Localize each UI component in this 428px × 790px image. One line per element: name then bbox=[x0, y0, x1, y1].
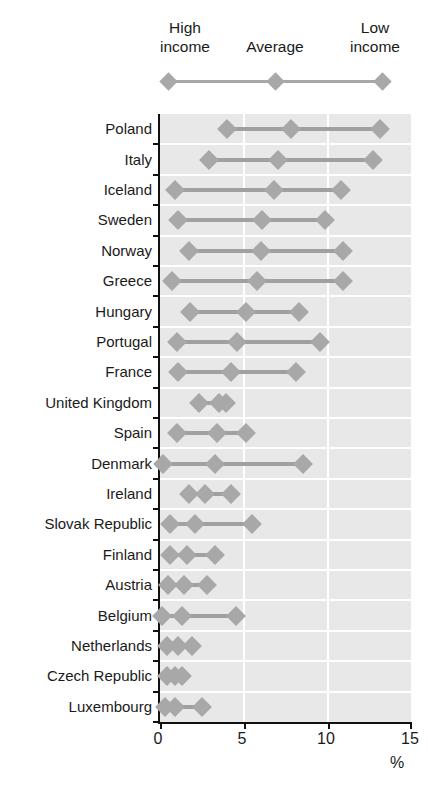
marker-high-income bbox=[160, 514, 180, 534]
marker-low-income bbox=[363, 150, 383, 170]
marker-average bbox=[206, 454, 226, 474]
legend-marker-high-income bbox=[159, 72, 177, 90]
marker-high-income bbox=[152, 606, 172, 626]
range-line bbox=[177, 340, 320, 344]
y-axis-tick bbox=[153, 447, 160, 449]
y-axis-label: Spain bbox=[2, 424, 152, 441]
y-axis-label: Denmark bbox=[2, 455, 152, 472]
row-separator bbox=[160, 508, 412, 510]
row-separator bbox=[160, 174, 412, 176]
chart-legend: High income Average Low income bbox=[0, 12, 428, 104]
y-axis-tick bbox=[153, 356, 160, 358]
marker-low-income bbox=[242, 514, 262, 534]
marker-low-income bbox=[221, 484, 241, 504]
x-axis-tick-label: 10 bbox=[306, 730, 346, 748]
range-line bbox=[170, 522, 252, 526]
row-separator bbox=[160, 599, 412, 601]
marker-average bbox=[251, 241, 271, 261]
marker-low-income bbox=[315, 210, 335, 230]
x-axis-tick-label: 15 bbox=[390, 730, 428, 748]
cut-off-title bbox=[0, 0, 428, 12]
y-axis-tick bbox=[153, 174, 160, 176]
x-axis-labels: % 051015 bbox=[0, 724, 428, 784]
marker-high-income bbox=[189, 393, 209, 413]
y-axis-tick bbox=[153, 660, 160, 662]
y-axis-label: United Kingdom bbox=[2, 394, 152, 411]
marker-average bbox=[174, 575, 194, 595]
marker-high-income bbox=[169, 362, 189, 382]
row-separator bbox=[160, 235, 412, 237]
marker-low-income bbox=[333, 241, 353, 261]
row-separator bbox=[160, 630, 412, 632]
marker-high-income bbox=[165, 180, 185, 200]
y-axis-label: Poland bbox=[2, 120, 152, 137]
y-axis-label: Portugal bbox=[2, 333, 152, 350]
row-separator bbox=[160, 539, 412, 541]
marker-average bbox=[185, 514, 205, 534]
x-axis-unit: % bbox=[390, 754, 404, 772]
y-axis-label: Slovak Republic bbox=[2, 515, 152, 532]
y-axis-tick bbox=[153, 387, 160, 389]
row-separator bbox=[160, 660, 412, 662]
y-axis-label: Iceland bbox=[2, 181, 152, 198]
y-axis-tick bbox=[153, 691, 160, 693]
y-axis-label: Luxembourg bbox=[2, 698, 152, 715]
legend-marker-average bbox=[266, 72, 284, 90]
y-axis-label: France bbox=[2, 363, 152, 380]
marker-average bbox=[268, 150, 288, 170]
row-separator bbox=[160, 478, 412, 480]
y-axis-tick bbox=[153, 599, 160, 601]
marker-low-income bbox=[286, 362, 306, 382]
marker-average bbox=[281, 119, 301, 139]
y-axis-tick bbox=[153, 508, 160, 510]
y-axis-labels: PolandItalyIcelandSwedenNorwayGreeceHung… bbox=[0, 114, 152, 722]
marker-low-income bbox=[332, 180, 352, 200]
marker-low-income bbox=[182, 636, 202, 656]
row-separator bbox=[160, 387, 412, 389]
marker-high-income bbox=[217, 119, 237, 139]
y-axis-tick bbox=[153, 204, 160, 206]
row-separator bbox=[160, 356, 412, 358]
legend-label-low-income: Low income bbox=[330, 18, 420, 56]
marker-average bbox=[177, 545, 197, 565]
legend-label-high-income: High income bbox=[140, 18, 230, 56]
marker-high-income bbox=[162, 271, 182, 291]
y-axis-tick bbox=[153, 630, 160, 632]
marker-high-income bbox=[199, 150, 219, 170]
row-separator bbox=[160, 204, 412, 206]
y-axis-label: Czech Republic bbox=[2, 667, 152, 684]
y-axis-tick bbox=[153, 417, 160, 419]
marker-high-income bbox=[167, 423, 187, 443]
x-axis-tick-label: 0 bbox=[138, 730, 178, 748]
legend-marker-low-income bbox=[373, 72, 391, 90]
y-axis-label: Norway bbox=[2, 242, 152, 259]
y-axis-label: Greece bbox=[2, 272, 152, 289]
y-axis-tick bbox=[153, 295, 160, 297]
marker-average bbox=[221, 362, 241, 382]
marker-average bbox=[172, 606, 192, 626]
y-axis-label: Finland bbox=[2, 546, 152, 563]
row-separator bbox=[160, 143, 412, 145]
row-separator bbox=[160, 447, 412, 449]
marker-high-income bbox=[169, 210, 189, 230]
marker-average bbox=[195, 484, 215, 504]
marker-average bbox=[264, 180, 284, 200]
marker-high-income bbox=[180, 302, 200, 322]
marker-low-income bbox=[293, 454, 313, 474]
plot-area bbox=[158, 114, 412, 724]
marker-average bbox=[207, 423, 227, 443]
y-axis-label: Netherlands bbox=[2, 637, 152, 654]
marker-high-income bbox=[167, 332, 187, 352]
row-separator bbox=[160, 295, 412, 297]
y-axis-tick bbox=[153, 235, 160, 237]
row-separator bbox=[160, 417, 412, 419]
marker-low-income bbox=[206, 545, 226, 565]
y-axis-tick bbox=[153, 539, 160, 541]
y-axis-tick bbox=[153, 478, 160, 480]
marker-low-income bbox=[290, 302, 310, 322]
y-axis-label: Belgium bbox=[2, 607, 152, 624]
marker-low-income bbox=[370, 119, 390, 139]
row-separator bbox=[160, 265, 412, 267]
row-separator bbox=[160, 569, 412, 571]
row-separator bbox=[160, 326, 412, 328]
